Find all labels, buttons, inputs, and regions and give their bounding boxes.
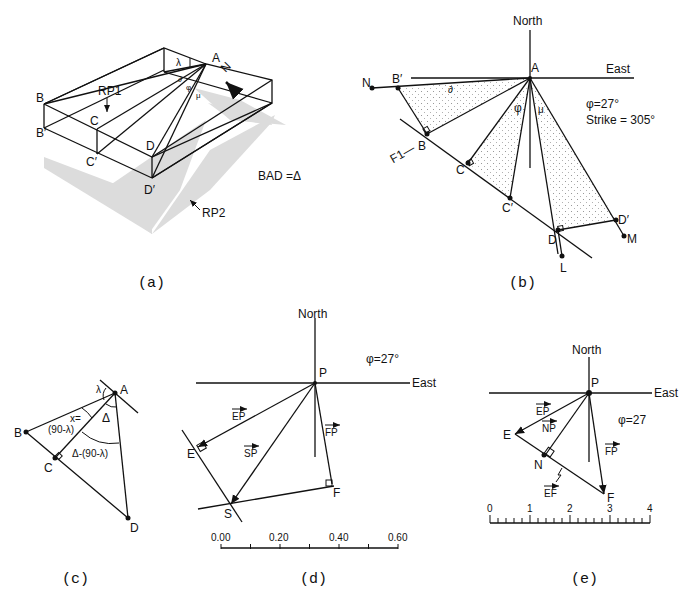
- svg-text:FP: FP: [325, 427, 338, 438]
- point-c-label: C: [456, 163, 465, 177]
- svg-text:2: 2: [567, 503, 573, 514]
- svg-text:EP: EP: [232, 411, 246, 422]
- point-d-label: D: [548, 233, 557, 247]
- point-b-label: B: [14, 426, 22, 440]
- panel-c-triangle: A B C D λ Δ x= (90-λ) Δ-(90-λ) (c): [14, 380, 139, 588]
- phi-value: φ=27: [618, 413, 646, 427]
- point-p-label: P: [319, 366, 327, 380]
- vector-np-label: NP: [542, 421, 557, 434]
- svg-text:EP: EP: [536, 406, 550, 417]
- remainder-angle-label: Δ-(90-λ): [72, 448, 108, 459]
- scale-bar-e: 0 1 2 3 4: [487, 503, 653, 523]
- point-b-prime-label: B′: [392, 72, 403, 86]
- svg-text:0.60: 0.60: [388, 532, 408, 543]
- vector-ep-label: EP: [536, 404, 551, 417]
- vector-fp-label: FP: [605, 444, 620, 457]
- figure-canvas: A B B′ C C′ D D′ λ ∂ φ μ RP1 RP2 BAD =Δ …: [0, 0, 698, 598]
- delta-small-label: ∂: [178, 75, 182, 84]
- vector-fp-label: FP: [325, 425, 340, 438]
- point-b-label: B: [36, 91, 44, 105]
- point-f-label: F: [333, 486, 340, 500]
- point-e-label: E: [503, 428, 511, 442]
- east-axis-label: East: [606, 62, 631, 76]
- vector-sp-label: SP: [244, 446, 259, 459]
- point-n-label: N: [362, 76, 371, 90]
- lambda-label: λ: [176, 57, 181, 68]
- north-axis-label: North: [513, 14, 542, 28]
- panel-a-block-diagram: A B B′ C C′ D D′ λ ∂ φ μ RP1 RP2 BAD =Δ …: [36, 48, 301, 292]
- point-n-label: N: [534, 458, 543, 472]
- rp2-label: RP2: [202, 206, 226, 220]
- delta-small-label: ∂: [448, 84, 453, 95]
- rp1-label: RP1: [98, 84, 122, 98]
- ef-pointer-icon: [556, 468, 562, 482]
- point-c-label: C: [90, 114, 99, 128]
- point-c-label: C: [44, 461, 53, 475]
- caption-e: (e): [571, 571, 598, 588]
- point-d-label: D: [146, 139, 155, 153]
- svg-text:EF: EF: [544, 488, 557, 499]
- bad-equation: BAD =Δ: [258, 169, 301, 183]
- phi-angle-label: φ: [514, 101, 522, 115]
- caption-c: (c): [62, 571, 89, 588]
- x-equals-label: x=: [70, 413, 81, 424]
- point-d-prime-label: D′: [144, 183, 156, 197]
- north-axis-label: North: [298, 307, 327, 321]
- north-axis-label: North: [572, 343, 601, 357]
- point-b-prime-label: B′: [36, 126, 47, 140]
- point-s-label: S: [224, 507, 232, 521]
- lambda-label: λ: [96, 384, 101, 395]
- panel-d-vector-diagram: North East P E S F EP SP FP φ=27°: [182, 307, 437, 588]
- point-c-prime-label: C′: [502, 201, 514, 215]
- point-a-label: A: [120, 383, 128, 397]
- fault-f1-label: F1—: [388, 141, 418, 166]
- caption-d: (d): [300, 571, 327, 588]
- caption-a: (a): [138, 275, 165, 292]
- svg-text:0.20: 0.20: [269, 532, 289, 543]
- point-a-label: A: [531, 61, 539, 75]
- svg-text:0.40: 0.40: [329, 532, 349, 543]
- point-m-label: M: [627, 232, 637, 246]
- panel-e-vector-diagram: North East P E N F EP NP FP EF φ=27: [487, 343, 679, 588]
- delta-label: Δ: [102, 411, 110, 425]
- svg-text:1: 1: [527, 503, 533, 514]
- svg-text:FP: FP: [605, 446, 618, 457]
- point-d-label: D: [130, 521, 139, 535]
- phi-value: φ=27°: [586, 97, 619, 111]
- point-l-label: L: [560, 261, 567, 275]
- svg-text:4: 4: [647, 503, 653, 514]
- svg-text:3: 3: [607, 503, 613, 514]
- svg-text:NP: NP: [542, 423, 556, 434]
- caption-b: (b): [509, 275, 536, 292]
- vector-ep-label: EP: [232, 409, 247, 422]
- point-b-label: B: [418, 139, 426, 153]
- point-d-prime-label: D′: [618, 213, 630, 227]
- point-e-label: E: [187, 447, 195, 461]
- mu-label: μ: [196, 91, 201, 100]
- svg-text:N: N: [218, 59, 234, 75]
- point-c-prime-label: C′: [86, 155, 98, 169]
- panel-b-map-view: North East A N B′ B F1— C C′ D D′ M L: [362, 14, 655, 292]
- vector-ef-label: EF: [544, 486, 559, 499]
- phi-value: φ=27°: [366, 352, 399, 366]
- east-axis-label: East: [412, 376, 437, 390]
- phi-label: φ: [186, 83, 191, 92]
- svg-text:SP: SP: [244, 448, 258, 459]
- svg-text:0.00: 0.00: [211, 532, 231, 543]
- svg-text:0: 0: [487, 503, 493, 514]
- point-p-label: P: [591, 376, 599, 390]
- x-value-label: (90-λ): [48, 424, 74, 435]
- east-axis-label: East: [654, 386, 679, 400]
- strike-value: Strike = 305°: [586, 113, 655, 127]
- scale-bar-d: 0.00 0.20 0.40 0.60: [211, 532, 408, 549]
- mu-angle-label: μ: [538, 104, 544, 115]
